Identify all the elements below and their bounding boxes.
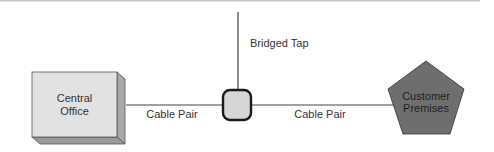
central-office-node: Central Office — [32, 72, 125, 144]
customer-premises-node: Customer Premises — [388, 61, 464, 134]
cable-pair-label-right: Cable Pair — [294, 108, 346, 120]
cable-pair-label-left: Cable Pair — [146, 108, 198, 120]
top-rule — [0, 0, 480, 2]
central-office-bottom — [32, 137, 125, 144]
central-office-label-line1: Central — [57, 92, 92, 104]
central-office-label-line2: Office — [60, 105, 89, 117]
customer-premises-label-line2: Premises — [403, 102, 449, 114]
customer-premises-label-line1: Customer — [402, 90, 450, 102]
central-office-side — [117, 72, 125, 144]
bridged-tap-label: Bridged Tap — [250, 37, 309, 49]
junction-node — [223, 90, 251, 120]
bridged-tap-diagram: Central Office Customer Premises Cable P… — [0, 0, 494, 152]
